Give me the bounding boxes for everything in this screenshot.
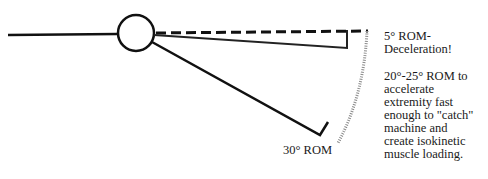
thirty-degree-limb-line xyxy=(152,42,328,135)
thirty-degree-label: 30° ROM xyxy=(283,144,332,157)
fixed-segment-line xyxy=(8,34,118,35)
joint-circle-icon xyxy=(118,15,154,51)
twenty-degree-label: 20°-25° ROM to accelerate extremity fast… xyxy=(384,70,473,161)
five-degree-label: 5° ROM- Deceleration! xyxy=(384,30,452,56)
reference-dashed-line xyxy=(156,31,368,33)
